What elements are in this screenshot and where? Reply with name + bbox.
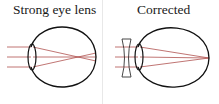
strong-eye-lens-diagram xyxy=(7,27,96,87)
corrected-diagram xyxy=(115,28,209,87)
incoming-rays-left xyxy=(7,47,96,67)
eye-lens-left xyxy=(28,44,36,70)
eye-diagrams xyxy=(0,0,219,104)
concave-lens xyxy=(122,39,131,77)
